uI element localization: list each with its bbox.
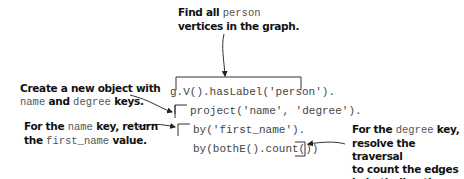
annotation-create-object: Create a new object with name and degree…	[20, 82, 161, 109]
code-line-3: by('first_name').	[193, 124, 305, 136]
annotation-name-key: For the name key, return the first_name …	[24, 120, 158, 148]
code-line-1: g.V().hasLabel('person').	[170, 86, 335, 98]
annotation-degree-key: For the degree key, resolve the traversa…	[352, 123, 464, 179]
code-line-2: project('name', 'degree').	[190, 105, 362, 117]
code-line-4: by(bothE().count())	[193, 143, 318, 155]
annotation-find-person: Find all person vertices in the graph.	[178, 6, 299, 33]
